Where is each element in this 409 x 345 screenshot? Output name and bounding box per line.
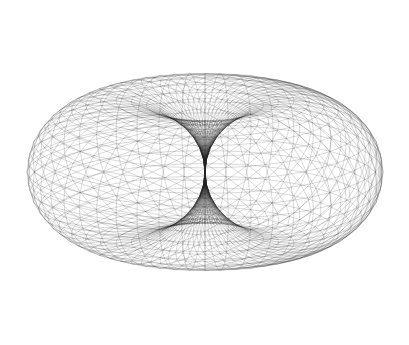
horn-torus-render bbox=[0, 0, 409, 345]
torus-wireframe bbox=[0, 0, 409, 345]
mesh-edges bbox=[27, 73, 383, 270]
